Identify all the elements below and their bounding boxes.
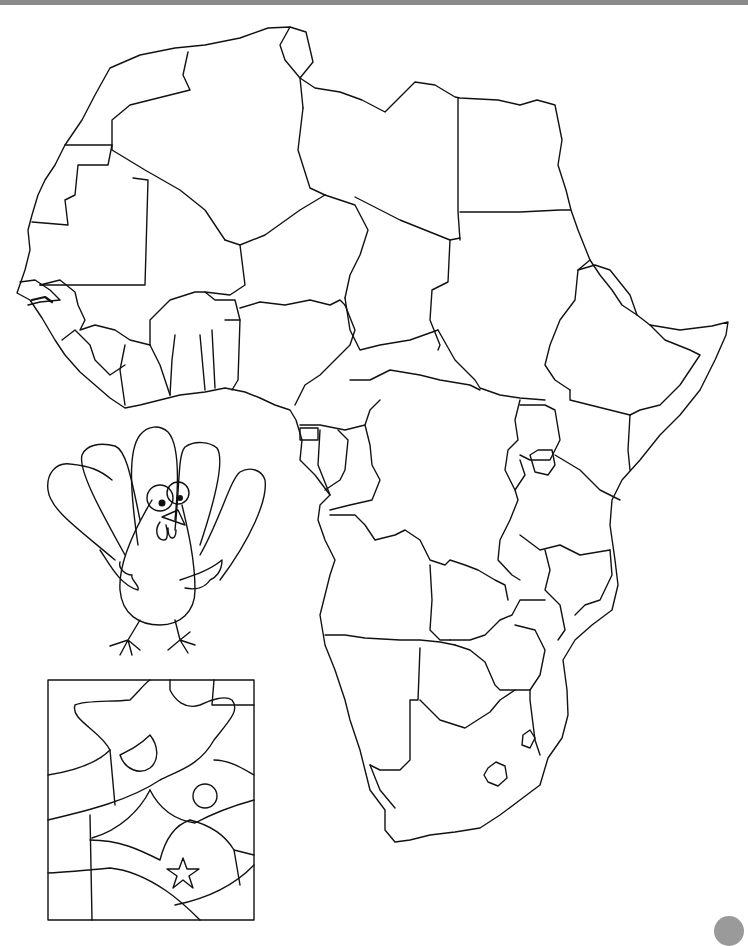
pattern-curve-11 bbox=[175, 865, 254, 905]
corner-mark bbox=[714, 916, 744, 946]
pattern-frame bbox=[48, 680, 254, 920]
pattern-curve-9 bbox=[150, 790, 254, 823]
pattern-curve-10 bbox=[92, 790, 150, 838]
pattern-curve-2 bbox=[48, 680, 235, 820]
pattern-curve-4 bbox=[120, 735, 157, 771]
pattern-curve-6 bbox=[214, 760, 254, 775]
pattern-curve-1 bbox=[48, 680, 150, 775]
pattern-curve-5 bbox=[110, 750, 115, 805]
pattern-star bbox=[167, 858, 199, 888]
pattern-circle bbox=[193, 784, 217, 808]
pattern-curve-8 bbox=[90, 820, 254, 860]
